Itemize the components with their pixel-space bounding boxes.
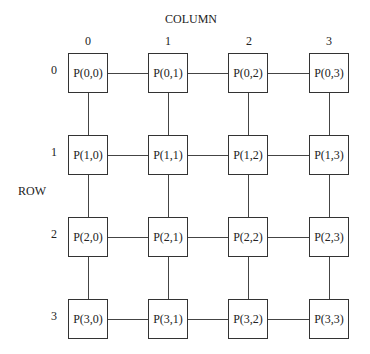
- link-v-0-0: [88, 93, 89, 135]
- link-v-0-1: [168, 93, 169, 135]
- link-h-1-0: [108, 155, 148, 156]
- node-p-3-2: P(3,2): [228, 299, 268, 339]
- link-v-2-3: [329, 257, 330, 299]
- row-label-3: 3: [51, 309, 57, 323]
- column-label-3: 3: [326, 34, 332, 48]
- node-p-3-0: P(3,0): [68, 299, 108, 339]
- link-h-3-2: [268, 319, 309, 320]
- column-label-2: 2: [246, 34, 252, 48]
- column-label-0: 0: [85, 34, 91, 48]
- link-v-2-2: [248, 257, 249, 299]
- node-p-1-0: P(1,0): [68, 135, 108, 175]
- node-p-2-1: P(2,1): [148, 217, 188, 257]
- node-p-1-3: P(1,3): [309, 135, 349, 175]
- link-v-2-1: [168, 257, 169, 299]
- node-p-1-1: P(1,1): [148, 135, 188, 175]
- link-h-2-0: [108, 237, 148, 238]
- node-p-3-1: P(3,1): [148, 299, 188, 339]
- node-p-0-3: P(0,3): [309, 53, 349, 93]
- node-p-0-2: P(0,2): [228, 53, 268, 93]
- link-h-1-1: [188, 155, 228, 156]
- node-p-0-0: P(0,0): [68, 53, 108, 93]
- link-v-1-0: [88, 175, 89, 217]
- node-p-3-3: P(3,3): [309, 299, 349, 339]
- link-h-2-1: [188, 237, 228, 238]
- row-label-0: 0: [51, 63, 57, 77]
- node-p-2-0: P(2,0): [68, 217, 108, 257]
- row-label-2: 2: [51, 227, 57, 241]
- row-title: ROW: [18, 184, 46, 198]
- node-p-2-2: P(2,2): [228, 217, 268, 257]
- link-h-3-1: [188, 319, 228, 320]
- column-title: COLUMN: [0, 12, 370, 26]
- link-h-0-2: [268, 73, 309, 74]
- node-p-1-2: P(1,2): [228, 135, 268, 175]
- link-v-1-1: [168, 175, 169, 217]
- link-v-0-3: [329, 93, 330, 135]
- column-label-1: 1: [165, 34, 171, 48]
- link-v-0-2: [248, 93, 249, 135]
- link-h-1-2: [268, 155, 309, 156]
- link-h-0-0: [108, 73, 148, 74]
- link-v-2-0: [88, 257, 89, 299]
- link-v-1-2: [248, 175, 249, 217]
- node-p-0-1: P(0,1): [148, 53, 188, 93]
- link-v-1-3: [329, 175, 330, 217]
- link-h-0-1: [188, 73, 228, 74]
- link-h-2-2: [268, 237, 309, 238]
- link-h-3-0: [108, 319, 148, 320]
- row-label-1: 1: [51, 145, 57, 159]
- node-p-2-3: P(2,3): [309, 217, 349, 257]
